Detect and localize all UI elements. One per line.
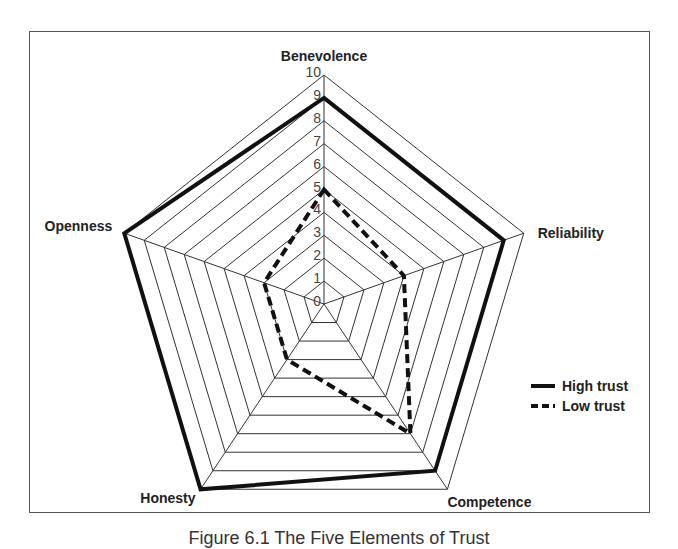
tick-label-6: 6	[313, 156, 321, 172]
tick-label-1: 1	[313, 270, 321, 286]
legend-label-high-trust: High trust	[562, 378, 628, 394]
tick-label-10: 10	[305, 64, 321, 80]
legend: High trust Low trust	[531, 378, 628, 414]
axis-spoke-openness	[124, 233, 324, 304]
tick-label-9: 9	[313, 87, 321, 103]
tick-label-3: 3	[313, 224, 321, 240]
tick-label-7: 7	[313, 133, 321, 149]
radar-grid	[124, 75, 523, 489]
tick-label-5: 5	[313, 179, 321, 195]
legend-label-low-trust: Low trust	[562, 398, 625, 414]
tick-labels: 012345678910	[305, 64, 321, 309]
tick-label-0: 0	[313, 293, 321, 309]
axis-label-reliability: Reliability	[538, 225, 604, 241]
axis-label-honesty: Honesty	[140, 490, 195, 506]
tick-label-2: 2	[313, 247, 321, 263]
axis-label-openness: Openness	[45, 218, 113, 234]
axis-label-competence: Competence	[447, 494, 531, 510]
tick-label-4: 4	[313, 201, 321, 217]
figure-caption: Figure 6.1 The Five Elements of Trust	[0, 528, 678, 549]
tick-label-8: 8	[313, 110, 321, 126]
axis-label-benevolence: Benevolence	[281, 48, 368, 64]
